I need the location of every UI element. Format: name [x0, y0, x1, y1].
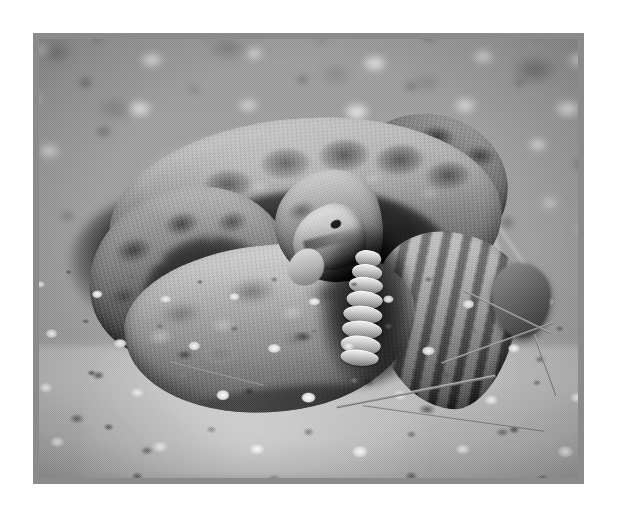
photo-frame: [33, 33, 584, 484]
photo-scene: [39, 39, 578, 478]
coiled-rattlesnake-photo: [39, 39, 578, 478]
page-canvas: [0, 0, 618, 514]
